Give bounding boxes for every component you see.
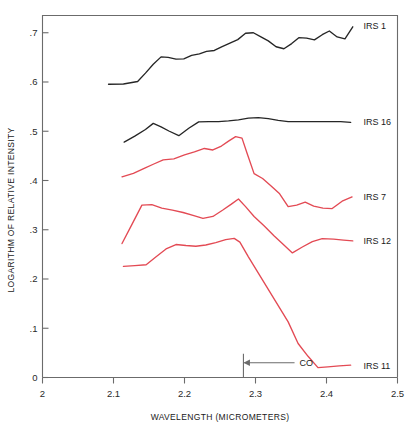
x-tick-label: 2.2 xyxy=(178,388,191,399)
series-label-irs-12: IRS 12 xyxy=(363,236,391,246)
series-label-irs-16: IRS 16 xyxy=(363,117,391,127)
y-tick-label: .4 xyxy=(30,175,38,186)
co-annotation-label: CO xyxy=(300,358,314,368)
y-tick-label: .3 xyxy=(30,224,38,235)
x-tick-label: 2.3 xyxy=(249,388,262,399)
x-axis-title: WAVELENGTH (MICROMETERS) xyxy=(151,412,290,422)
y-tick-label: .2 xyxy=(30,273,38,284)
chart-canvas: 22.12.22.32.42.5 0.1.2.3.4.5.6.7 IRS 1IR… xyxy=(0,0,420,430)
x-tick-label: 2.1 xyxy=(107,388,120,399)
y-tick-label: .5 xyxy=(30,126,38,137)
y-tick-label: .6 xyxy=(30,76,38,87)
series-label-irs-7: IRS 7 xyxy=(363,192,386,202)
x-tick-label: 2 xyxy=(40,388,45,399)
series-label-irs-1: IRS 1 xyxy=(363,21,386,31)
y-tick-label: 0 xyxy=(32,372,37,383)
y-tick-label: .7 xyxy=(30,27,38,38)
y-tick-label: .1 xyxy=(30,323,38,334)
spectra-chart-figure: 22.12.22.32.42.5 0.1.2.3.4.5.6.7 IRS 1IR… xyxy=(0,0,420,430)
y-axis-title: LOGARITHM OF RELATIVE INTENSITY xyxy=(6,127,16,292)
chart-background xyxy=(0,0,420,430)
x-tick-label: 2.5 xyxy=(391,388,404,399)
series-label-irs-11: IRS 11 xyxy=(363,361,390,371)
x-tick-label: 2.4 xyxy=(320,388,333,399)
